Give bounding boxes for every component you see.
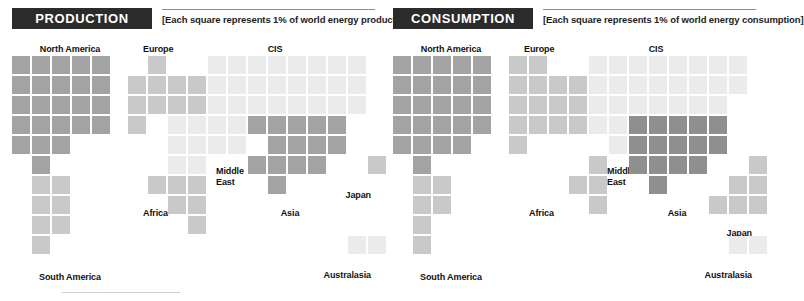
waffle-cell [589,96,607,114]
waffle-cell [609,56,627,74]
waffle-cell [348,56,366,74]
waffle-cell [288,56,306,74]
waffle-cell [12,76,30,94]
waffle-cell [92,56,110,74]
region-label: North America [421,44,481,55]
waffle-cell [709,116,727,134]
waffle-cell [328,76,346,94]
waffle-cell [413,216,431,234]
waffle-cell [128,76,146,94]
waffle-cell [248,56,266,74]
region-label: South America [39,272,101,283]
waffle-cell [52,116,70,134]
waffle-cell [453,76,471,94]
waffle-cell [709,96,727,114]
waffle-cell [689,116,707,134]
waffle-cell [649,156,667,174]
waffle-cell [413,116,431,134]
waffle-cell [148,76,166,94]
waffle-cell [393,136,411,154]
waffle-cell [228,136,246,154]
waffle-cell [433,96,451,114]
waffle-cell [308,136,326,154]
waffle-cell [72,76,90,94]
region-label: Asia [281,208,300,219]
waffle-cell [589,156,607,174]
waffle-cell [188,176,206,194]
waffle-cell [288,76,306,94]
waffle-cell [649,76,667,94]
waffle-cell [268,96,286,114]
waffle-cell [669,136,687,154]
waffle-cell [72,116,90,134]
waffle-cell [208,56,226,74]
waffle-cell [709,76,727,94]
waffle-cell [433,176,451,194]
waffle-cell [168,196,186,214]
waffle-cell [128,116,146,134]
consumption-waffle-map: North AmericaSouth AmericaEuropeCISMiddl… [381,0,762,301]
waffle-cell [569,76,587,94]
waffle-cell [689,96,707,114]
waffle-cell [228,76,246,94]
waffle-cell [208,96,226,114]
waffle-cell [729,76,747,94]
waffle-cell [308,156,326,174]
waffle-cell [32,76,50,94]
waffle-cell [549,116,567,134]
waffle-cell [328,96,346,114]
waffle-cell [473,56,491,74]
waffle-cell [188,76,206,94]
waffle-cell [168,116,186,134]
waffle-cell [629,96,647,114]
waffle-cell [589,176,607,194]
waffle-cell [72,56,90,74]
waffle-cell [52,216,70,234]
waffle-cell [393,76,411,94]
waffle-cell [288,136,306,154]
waffle-cell [609,116,627,134]
waffle-cell [32,56,50,74]
waffle-cell [729,176,747,194]
waffle-cell [188,136,206,154]
waffle-cell [393,56,411,74]
waffle-cell [268,76,286,94]
waffle-cell [308,56,326,74]
waffle-cell [569,176,587,194]
waffle-cell [729,236,747,254]
waffle-cell [208,76,226,94]
waffle-cell [749,156,767,174]
waffle-cell [228,56,246,74]
waffle-cell [689,136,707,154]
waffle-cell [308,96,326,114]
panel-production: PRODUCTION [Each square represents 1% of… [0,0,381,301]
waffle-cell [589,56,607,74]
region-label: Africa [529,208,554,219]
waffle-cell [268,136,286,154]
waffle-cell [629,136,647,154]
waffle-cell [12,116,30,134]
waffle-cell [328,56,346,74]
waffle-cell [749,196,767,214]
waffle-cell [729,56,747,74]
region-label-line: Middle [216,166,244,177]
waffle-cell [589,116,607,134]
panel-consumption: CONSUMPTION [Each square represents 1% o… [381,0,762,301]
waffle-cell [188,116,206,134]
waffle-cell [729,196,747,214]
waffle-cell [413,76,431,94]
waffle-cell [433,56,451,74]
region-label: South America [420,272,482,283]
waffle-cell [669,56,687,74]
waffle-cell [509,136,527,154]
waffle-cell [453,96,471,114]
waffle-cell [413,56,431,74]
waffle-cell [453,56,471,74]
waffle-cell [228,116,246,134]
waffle-cell [168,76,186,94]
waffle-cell [92,116,110,134]
waffle-cell [168,136,186,154]
waffle-cell [629,76,647,94]
waffle-cell [268,156,286,174]
waffle-cell [433,76,451,94]
